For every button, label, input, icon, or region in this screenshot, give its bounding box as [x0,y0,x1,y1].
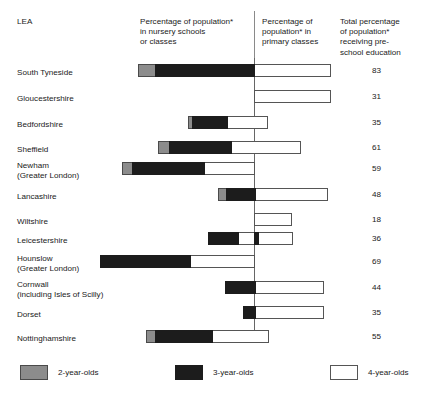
row-total-percentage: 36 [372,234,398,243]
column-header-lea: LEA [17,17,32,27]
bar-segment-3-year-olds [254,232,259,245]
bar-segment-4-year-olds [212,330,269,343]
bar-segment-3-year-olds [169,141,232,154]
stacked-bar [0,90,428,103]
bar-segment-3-year-olds [243,306,256,319]
row-total-percentage: 35 [372,308,398,317]
bar-segment-4-year-olds [255,188,328,201]
bar-segment-2-year-olds [138,64,156,77]
bar-segment-4-year-olds [255,281,324,294]
legend-swatch-2-year-olds [20,365,48,380]
row-total-percentage: 18 [372,215,398,224]
bar-segment-3-year-olds [208,232,239,245]
stacked-bar [0,116,428,129]
bar-segment-3-year-olds [192,116,228,129]
row-total-percentage: 35 [372,118,398,127]
stacked-bar [0,255,428,268]
bar-segment-4-year-olds [258,232,293,245]
row-total-percentage: 69 [372,257,398,266]
stacked-bar [0,330,428,343]
row-total-percentage: 83 [372,66,398,75]
legend-label-4-year-olds: 4-year-olds [368,368,409,377]
legend-label-2-year-olds: 2-year-olds [58,368,99,377]
bar-segment-3-year-olds [225,281,256,294]
stacked-bar [0,232,428,245]
row-total-percentage: 59 [372,164,398,173]
stacked-bar [0,188,428,201]
bar-segment-4-year-olds [238,232,255,245]
stacked-bar [0,162,428,175]
bar-segment-4-year-olds [254,64,331,77]
lea-preschool-chart: LEA Percentage of population* in nursery… [0,0,428,404]
row-total-percentage: 31 [372,92,398,101]
legend-swatch-4-year-olds [330,365,358,380]
row-total-percentage: 61 [372,143,398,152]
column-header-total-percentage: Total percentage of population* receivin… [340,17,424,58]
column-header-nursery-percentage: Percentage of population* in nursery sch… [140,17,252,48]
stacked-bar [0,64,428,77]
chart-legend: 2-year-olds 3-year-olds 4-year-olds [0,363,428,393]
bar-segment-3-year-olds [132,162,205,175]
bar-segment-4-year-olds [190,255,255,268]
bar-segment-3-year-olds [155,330,213,343]
stacked-bar [0,281,428,294]
stacked-bar [0,141,428,154]
row-total-percentage: 48 [372,190,398,199]
stacked-bar [0,306,428,319]
bar-segment-3-year-olds [100,255,191,268]
bar-segment-4-year-olds [254,90,331,103]
bar-segment-3-year-olds [226,188,256,201]
header-column-divider [254,11,255,58]
bar-segment-4-year-olds [255,306,324,319]
bar-segment-4-year-olds [231,141,301,154]
bar-segment-4-year-olds [204,162,255,175]
column-header-primary-percentage: Percentage of population* in primary cla… [262,17,334,48]
bar-segment-4-year-olds [254,213,292,226]
row-total-percentage: 44 [372,283,398,292]
bar-segment-4-year-olds [227,116,268,129]
row-total-percentage: 55 [372,332,398,341]
legend-swatch-3-year-olds [175,365,203,380]
legend-label-3-year-olds: 3-year-olds [213,368,254,377]
bar-segment-3-year-olds [155,64,255,77]
stacked-bar [0,213,428,226]
